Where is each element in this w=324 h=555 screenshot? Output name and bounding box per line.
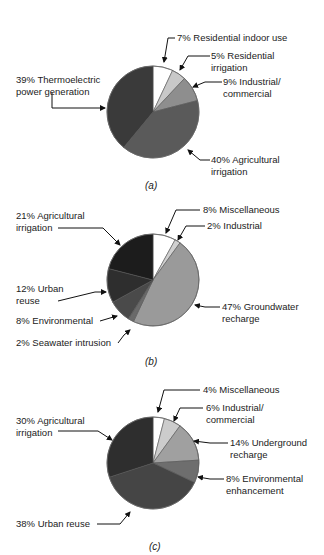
label-a-thermoelectric: 39% Thermoelectricpower generation [16, 74, 100, 98]
label-text: 8% Environmental [226, 473, 303, 484]
pie-chart-a [107, 66, 199, 158]
label-text: irrigation [16, 427, 52, 438]
label-text: commercial [206, 414, 255, 425]
label-c-urban-reuse: 38% Urban reuse [16, 518, 90, 530]
label-text: 47% Groundwater [222, 301, 299, 312]
pie-chart-b [107, 234, 199, 326]
label-b-seawater: 2% Seawater intrusion [16, 337, 111, 349]
label-b-industrial: 2% Industrial [207, 220, 262, 232]
label-text: 9% Industrial/ [223, 76, 281, 87]
label-b-urban-reuse: 12% Urbanreuse [16, 283, 64, 307]
label-a-industrial: 9% Industrial/commercial [223, 76, 281, 100]
label-text: irrigation [211, 166, 247, 177]
label-b-groundwater: 47% Groundwaterrecharge [222, 301, 299, 325]
label-text: 5% Residential [211, 50, 274, 61]
caption-c: (c) [149, 541, 161, 552]
label-text: 14% Underground [230, 437, 307, 448]
label-a-residential-irrigation: 5% Residentialirrigation [211, 50, 274, 74]
label-c-agricultural: 30% Agriculturalirrigation [16, 415, 85, 439]
label-text: power generation [16, 86, 89, 97]
label-c-industrial: 6% Industrial/commercial [206, 402, 264, 426]
label-b-miscellaneous: 8% Miscellaneous [203, 204, 280, 216]
label-text: recharge [230, 449, 268, 460]
caption-a: (a) [145, 180, 157, 191]
label-text: 6% Industrial/ [206, 402, 264, 413]
label-text: commercial [223, 88, 272, 99]
label-c-miscellaneous: 4% Miscellaneous [203, 384, 280, 396]
label-text: 30% Agricultural [16, 415, 85, 426]
label-text: 12% Urban [16, 283, 64, 294]
label-text: recharge [222, 313, 260, 324]
label-text: 39% Thermoelectric [16, 74, 100, 85]
label-text: enhancement [226, 485, 284, 496]
label-c-underground: 14% Undergroundrecharge [230, 437, 307, 461]
label-text: 40% Agricultural [211, 154, 280, 165]
pie-chart-c [107, 417, 199, 509]
label-text: 21% Agricultural [16, 210, 85, 221]
label-text: irrigation [16, 222, 52, 233]
label-text: reuse [16, 295, 40, 306]
label-text: irrigation [211, 62, 247, 73]
label-b-agricultural: 21% Agriculturalirrigation [16, 210, 85, 234]
caption-b: (b) [145, 356, 157, 367]
label-a-residential-indoor: 7% Residential indoor use [177, 32, 287, 44]
label-a-agricultural: 40% Agriculturalirrigation [211, 154, 280, 178]
label-b-environmental: 8% Environmental [16, 315, 93, 327]
label-c-environmental: 8% Environmentalenhancement [226, 473, 303, 497]
